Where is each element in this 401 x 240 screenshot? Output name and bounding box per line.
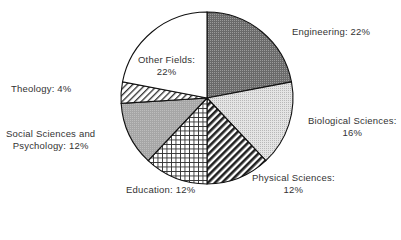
label-social-sciences: Social Sciences andPsychology: 12% <box>6 128 95 152</box>
label-physical-sciences: Physical Sciences:12% <box>252 172 335 196</box>
label-theology: Theology: 4% <box>11 83 72 95</box>
label-biological-sciences: Biological Sciences:16% <box>308 115 397 139</box>
label-engineering: Engineering: 22% <box>292 26 370 38</box>
label-other-fields: Other Fields:22% <box>138 54 195 78</box>
label-education: Education: 12% <box>126 184 195 196</box>
